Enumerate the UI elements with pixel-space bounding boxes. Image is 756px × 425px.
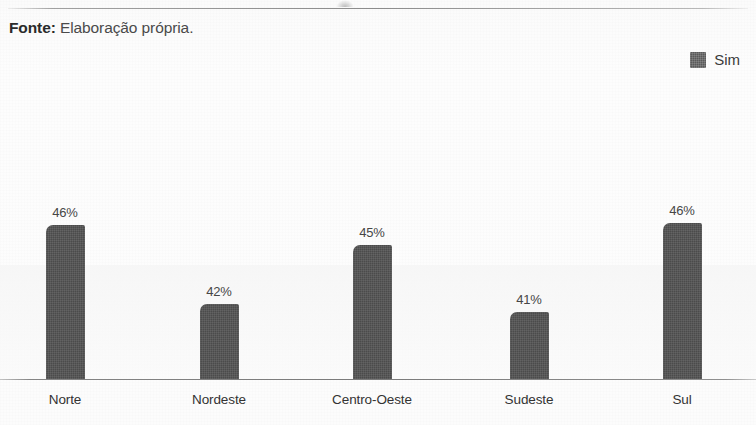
bar-group-norte: 46%: [45, 205, 85, 379]
chart-legend: Sim: [690, 51, 740, 68]
source-caption-label: Fonte:: [9, 19, 56, 36]
x-axis-tick-label-nordeste: Nordeste: [192, 392, 246, 407]
bar-value-label: 45%: [359, 225, 384, 240]
scan-smudge-artifact: [336, 0, 354, 7]
bar-rect-sul[interactable]: [663, 223, 702, 379]
bar-group-sudeste: 41%: [509, 292, 549, 379]
top-divider-rule: [8, 8, 748, 9]
x-axis-tick-label-sul: Sul: [672, 392, 691, 407]
legend-item-label-sim: Sim: [714, 51, 740, 68]
source-caption-value: Elaboração própria.: [60, 19, 193, 36]
bar-group-centro-oeste: 45%: [352, 225, 392, 379]
bar-rect-sudeste[interactable]: [510, 312, 549, 379]
bar-rect-norte[interactable]: [46, 225, 85, 379]
bar-value-label: 46%: [669, 203, 694, 218]
x-axis-tick-label-centro-oeste: Centro-Oeste: [332, 392, 412, 407]
chart-plot-area: 46% 42% 45% 41% 46%: [0, 180, 756, 380]
bar-group-sul: 46%: [662, 203, 702, 379]
x-axis-labels: Norte Nordeste Centro-Oeste Sudeste Sul: [0, 392, 756, 416]
bar-rect-nordeste[interactable]: [200, 304, 239, 379]
bar-value-label: 41%: [516, 292, 541, 307]
bar-value-label: 46%: [52, 205, 77, 220]
legend-swatch-icon: [690, 52, 706, 68]
source-caption: Fonte: Elaboração própria.: [9, 19, 193, 37]
bar-value-label: 42%: [206, 284, 231, 299]
x-axis-tick-label-norte: Norte: [49, 392, 82, 407]
x-axis-tick-label-sudeste: Sudeste: [505, 392, 554, 407]
bar-group-nordeste: 42%: [199, 284, 239, 379]
bar-rect-centro-oeste[interactable]: [353, 245, 392, 379]
x-axis-baseline: [0, 379, 756, 381]
